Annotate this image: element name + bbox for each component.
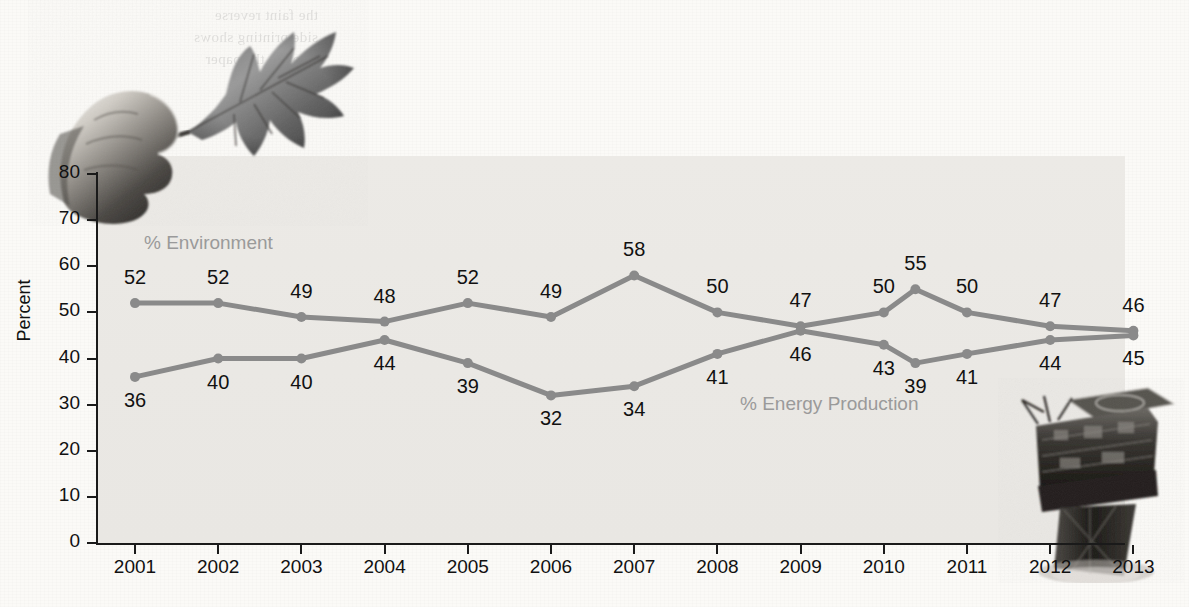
data-point-label: 49	[528, 280, 574, 303]
y-axis-title: Percent	[14, 251, 35, 371]
data-point-label: 50	[944, 275, 990, 298]
x-tick-2005	[467, 545, 469, 554]
x-tick-2012	[1049, 545, 1051, 554]
y-tick-label-80: 80	[36, 161, 80, 183]
y-tick-label-20: 20	[36, 438, 80, 460]
data-point-label: 32	[528, 407, 574, 430]
data-point-label: 46	[778, 343, 824, 366]
data-point-label: 50	[861, 275, 907, 298]
data-point-label: 48	[362, 285, 408, 308]
x-tick-2003	[300, 545, 302, 554]
data-point-label: 40	[278, 371, 324, 394]
data-point-label: 45	[1110, 347, 1156, 370]
y-tick-50	[87, 311, 96, 313]
x-tick-label-2005: 2005	[428, 556, 508, 578]
x-tick-label-2008: 2008	[677, 556, 757, 578]
x-tick-2001	[134, 545, 136, 554]
x-tick-label-2003: 2003	[261, 556, 341, 578]
x-tick-label-2013: 2013	[1093, 556, 1173, 578]
x-tick-2009	[800, 545, 802, 554]
y-tick-label-30: 30	[36, 392, 80, 414]
y-tick-20	[87, 450, 96, 452]
x-tick-label-2012: 2012	[1010, 556, 1090, 578]
data-point-label: 41	[944, 366, 990, 389]
y-tick-40	[87, 358, 96, 360]
y-tick-10	[87, 496, 96, 498]
data-point-label: 39	[445, 375, 491, 398]
x-tick-2008	[716, 545, 718, 554]
x-tick-label-2010: 2010	[844, 556, 924, 578]
bleed-through-text: the faint reverse side printing shows th…	[18, 4, 318, 66]
data-point-marker	[1128, 330, 1138, 340]
x-tick-2002	[217, 545, 219, 554]
y-tick-label-70: 70	[36, 207, 80, 229]
data-point-label: 44	[362, 352, 408, 375]
y-tick-label-0: 0	[36, 530, 80, 552]
x-tick-label-2007: 2007	[594, 556, 674, 578]
y-tick-label-40: 40	[36, 346, 80, 368]
data-point-label: 55	[892, 252, 938, 275]
x-tick-2006	[550, 545, 552, 554]
y-tick-60	[87, 265, 96, 267]
data-point-marker	[1128, 326, 1138, 336]
x-tick-label-2009: 2009	[761, 556, 841, 578]
y-tick-label-10: 10	[36, 484, 80, 506]
x-tick-label-2011: 2011	[927, 556, 1007, 578]
data-point-label: 50	[694, 275, 740, 298]
chart-figure: the faint reverse side printing shows th…	[0, 0, 1189, 607]
x-tick-label-2001: 2001	[95, 556, 175, 578]
x-axis-line	[96, 543, 1125, 545]
data-point-label: 58	[611, 238, 657, 261]
data-point-label: 40	[195, 371, 241, 394]
data-point-label: 52	[112, 266, 158, 289]
y-tick-label-60: 60	[36, 253, 80, 275]
y-tick-30	[87, 404, 96, 406]
y-tick-0	[87, 542, 96, 544]
y-tick-70	[87, 219, 96, 221]
data-point-label: 41	[694, 366, 740, 389]
x-tick-label-2006: 2006	[511, 556, 591, 578]
legend-label-environment: % Environment	[144, 232, 273, 254]
x-tick-2011	[966, 545, 968, 554]
data-point-label: 47	[1027, 289, 1073, 312]
x-tick-label-2004: 2004	[345, 556, 425, 578]
x-tick-2004	[384, 545, 386, 554]
x-tick-2007	[633, 545, 635, 554]
legend-label-energy-production: % Energy Production	[740, 393, 919, 415]
y-tick-80	[87, 173, 96, 175]
data-point-label: 36	[112, 389, 158, 412]
data-point-label: 46	[1110, 294, 1156, 317]
y-axis-line	[96, 172, 98, 545]
x-tick-2013	[1132, 545, 1134, 554]
plot-area-background	[96, 156, 1125, 543]
data-point-label: 44	[1027, 352, 1073, 375]
data-point-label: 47	[778, 289, 824, 312]
x-tick-label-2002: 2002	[178, 556, 258, 578]
data-point-label: 52	[195, 266, 241, 289]
x-tick-2010	[883, 545, 885, 554]
data-point-label: 34	[611, 398, 657, 421]
data-point-label: 49	[278, 280, 324, 303]
y-tick-label-50: 50	[36, 299, 80, 321]
data-point-label: 52	[445, 266, 491, 289]
